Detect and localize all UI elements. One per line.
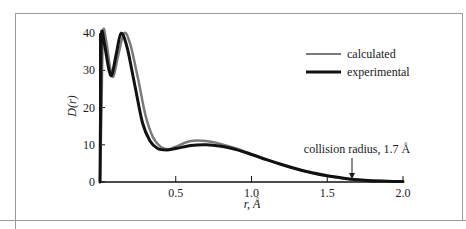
- y-tick-labels: 010203040: [83, 26, 95, 189]
- legend: calculated experimental: [306, 47, 410, 79]
- legend-label-calculated: calculated: [347, 47, 396, 61]
- x-axis-label: r, Å: [244, 197, 261, 211]
- x-tick-label: 1.5: [320, 186, 335, 200]
- chart-plot: 010203040 0.51.01.52.0 D(r) r, Å calcula…: [0, 0, 466, 229]
- x-tick-label: 0.5: [168, 186, 183, 200]
- x-tick-labels: 0.51.01.52.0: [168, 186, 410, 200]
- legend-label-experimental: experimental: [347, 65, 410, 79]
- y-tick-label: 0: [89, 175, 95, 189]
- y-tick-label: 40: [83, 26, 95, 40]
- annotation-text: collision radius, 1.7 Å: [304, 142, 411, 156]
- x-tick-label: 2.0: [396, 186, 411, 200]
- y-tick-label: 10: [83, 138, 95, 152]
- y-tick-label: 20: [83, 101, 95, 115]
- y-tick-label: 30: [83, 63, 95, 77]
- y-axis-label: D(r): [65, 95, 79, 117]
